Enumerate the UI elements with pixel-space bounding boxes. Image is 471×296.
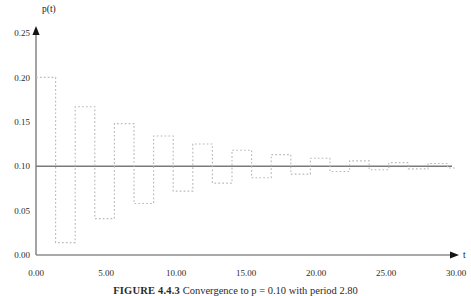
x-axis-label: t — [463, 250, 466, 260]
y-axis-label: p(t) — [42, 4, 56, 15]
y-tick-label: 0.10 — [14, 161, 30, 171]
x-axis-arrowhead — [450, 251, 459, 258]
x-tick-label: 5.00 — [98, 268, 114, 278]
y-tick-label: 0.15 — [14, 117, 30, 127]
x-tick-label: 0.00 — [28, 268, 44, 278]
y-tick-label: 0.20 — [14, 73, 30, 83]
y-tick-label: 0.25 — [14, 28, 30, 38]
population-series — [36, 77, 456, 242]
figure-caption: FIGURE 4.4.3 Convergence to p = 0.10 wit… — [0, 285, 471, 296]
y-axis-arrowhead — [32, 26, 39, 35]
axes — [32, 26, 459, 259]
x-axis-tick-labels: 0.00 5.00 10.00 15.00 20.00 25.00 30.00 — [28, 268, 467, 278]
figure-caption-text: Convergence to p = 0.10 with period 2.80 — [183, 285, 358, 296]
figure-caption-label: FIGURE 4.4.3 — [113, 285, 180, 296]
y-tick-label: 0.00 — [14, 250, 30, 260]
x-tick-label: 15.00 — [236, 268, 257, 278]
x-tick-label: 10.00 — [166, 268, 187, 278]
x-tick-label: 30.00 — [446, 268, 467, 278]
y-axis-tick-labels: 0.00 0.05 0.10 0.15 0.20 0.25 — [14, 28, 30, 260]
y-tick-label: 0.05 — [14, 206, 30, 216]
x-tick-label: 25.00 — [376, 268, 397, 278]
x-tick-label: 20.00 — [306, 268, 327, 278]
